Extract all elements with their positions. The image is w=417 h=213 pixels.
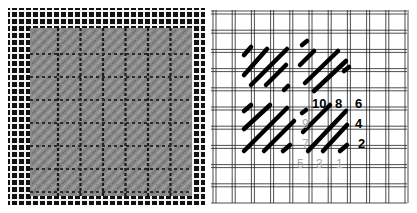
stitch-order-label: 4 [355,116,363,131]
stitch-order-label: 2 [358,136,365,151]
stitch-order-label: 6 [355,96,362,111]
stitch-order-label-back: 1 [336,157,343,171]
stitch-order-label: 8 [335,96,342,111]
stitch-sample-photo [8,8,205,205]
stitch-diagram: 10864297531 [210,8,410,205]
stitch-order-label-back: 5 [297,157,304,171]
stitch-order-label-back: 9 [302,117,309,131]
stitch-order-label-back: 7 [302,137,309,151]
stitch-order-label: 10 [312,96,326,111]
stitch-order-label-back: 3 [316,157,323,171]
